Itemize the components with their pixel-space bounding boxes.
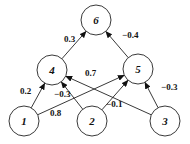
node-1: 1 [9,106,39,136]
weight-label-1-4: 0.2 [20,86,32,96]
node-label: 6 [93,14,99,26]
node-label: 3 [161,115,168,127]
node-label: 4 [48,64,55,76]
weight-label-4-6: 0.3 [64,34,76,44]
weight-label-3-4: 0.7 [85,68,97,78]
weight-label-2-4: −0.3 [54,89,71,99]
network-diagram: 123456 0.20.8−0.3−0.10.7−0.30.3−0.4 [0,0,190,144]
edge-3-to-5 [145,82,158,107]
weight-label-3-5: −0.3 [161,82,178,92]
node-5: 5 [123,54,153,84]
node-label: 2 [88,115,95,127]
node-6: 6 [81,5,111,35]
node-label: 5 [135,63,141,75]
weight-label-1-5: 0.8 [50,108,62,118]
weight-label-2-5: −0.1 [106,99,123,109]
node-label: 1 [21,115,27,127]
node-4: 4 [37,55,67,85]
weight-label-5-6: −0.4 [122,30,139,40]
node-3: 3 [150,106,180,136]
edge-1-to-4 [31,83,45,108]
node-2: 2 [77,106,107,136]
